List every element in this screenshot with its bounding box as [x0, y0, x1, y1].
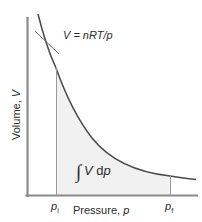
tick-label-pf-subscript: f — [171, 206, 174, 215]
x-axis-title: Pressure, p — [73, 204, 129, 216]
integral-label-text: V dp — [84, 163, 111, 178]
tick-label-pi-subscript: i — [57, 206, 59, 215]
x-axis-title-symbol: p — [122, 204, 129, 216]
tick-label-pi-base: p — [50, 200, 57, 212]
y-axis-title-symbol: V — [10, 88, 22, 97]
pv-diagram-svg: V = nRT/p ∫ V dp Pressure, p Volume, V p… — [0, 0, 202, 222]
tick-label-pf: pf — [164, 200, 174, 215]
y-axis-title-plain: Volume, — [10, 97, 22, 140]
x-axis-title-plain: Pressure, — [73, 204, 123, 216]
integral-variable-p: p — [103, 163, 111, 178]
curve-equation-label: V = nRT/p — [63, 29, 113, 41]
curve-label-leader-line — [35, 31, 59, 54]
integral-shaded-region — [56, 68, 170, 195]
figure-container: V = nRT/p ∫ V dp Pressure, p Volume, V p… — [0, 0, 202, 222]
tick-label-pi: pi — [50, 200, 59, 215]
y-axis-title: Volume, V — [10, 88, 22, 140]
tick-label-pf-base: p — [164, 200, 171, 212]
